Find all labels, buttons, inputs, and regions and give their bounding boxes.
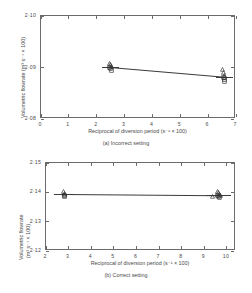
x-tick-label: 1 <box>66 121 69 127</box>
panel-caption-a: (a) Incorrect setting <box>0 140 252 146</box>
x-tick-label: 7 <box>157 253 160 259</box>
y-tick-label: 2·15 <box>17 159 41 165</box>
y-tick <box>41 119 44 120</box>
y-tick-label: 2·12 <box>17 247 41 253</box>
x-tick-label: 2 <box>43 253 46 259</box>
triangle-marker <box>210 194 214 198</box>
x-tick <box>159 246 160 249</box>
chart-panel-b: Volumetric flowrate (m³ s⁻¹ × 100) 23456… <box>0 150 252 293</box>
y-tick-label: 2·13 <box>17 218 41 224</box>
y-tick <box>41 16 44 17</box>
y-tick-right <box>231 119 234 120</box>
y-tick-right <box>231 192 234 193</box>
square-marker <box>217 195 221 199</box>
x-tick-label: 8 <box>179 253 182 259</box>
square-marker <box>109 68 113 72</box>
x-tick-top <box>159 163 160 166</box>
x-tick <box>124 114 125 117</box>
x-tick-label: 0 <box>38 121 41 127</box>
x-tick-top <box>91 163 92 166</box>
square-marker <box>222 79 226 83</box>
y-tick <box>46 163 49 164</box>
x-tick <box>96 114 97 117</box>
y-tick <box>46 221 49 222</box>
figure-root: Volumetric flowrate (m³ s⁻¹ × 100) 01234… <box>0 0 252 293</box>
x-tick-label: 10 <box>223 253 229 259</box>
x-tick <box>204 246 205 249</box>
x-tick <box>46 246 47 249</box>
square-marker <box>62 194 66 198</box>
x-tick <box>180 114 181 117</box>
x-tick <box>236 114 237 117</box>
x-tick <box>136 246 137 249</box>
x-tick-top <box>96 16 97 19</box>
x-tick-top <box>68 163 69 166</box>
x-tick-label: 6 <box>134 253 137 259</box>
x-tick-label: 3 <box>66 253 69 259</box>
x-axis-title-b: Reciprocal of diversion period (s⁻¹ × 10… <box>45 260 235 266</box>
x-tick <box>91 246 92 249</box>
y-tick <box>46 251 49 252</box>
y-tick <box>41 67 44 68</box>
x-tick-top <box>113 163 114 166</box>
plot-area-b <box>45 162 235 250</box>
x-tick-label: 3 <box>122 121 125 127</box>
x-tick-label: 4 <box>89 253 92 259</box>
y-tick-right <box>231 163 234 164</box>
y-tick-label: 2·08 <box>12 115 36 121</box>
plot-area-a <box>40 15 235 118</box>
y-tick-right <box>231 221 234 222</box>
x-tick-label: 2 <box>94 121 97 127</box>
x-tick <box>41 114 42 117</box>
y-tick-right <box>231 67 234 68</box>
x-tick-label: 4 <box>150 121 153 127</box>
x-tick-top <box>180 16 181 19</box>
x-tick-label: 7 <box>233 121 236 127</box>
y-tick-label: 2·10 <box>12 12 36 18</box>
y-tick-right <box>231 251 234 252</box>
y-tick-right <box>231 16 234 17</box>
chart-panel-a: Volumetric flowrate (m³ s⁻¹ × 100) 01234… <box>0 0 252 150</box>
x-tick <box>68 246 69 249</box>
x-tick <box>208 114 209 117</box>
panel-caption-b: (b) Correct setting <box>0 272 252 278</box>
x-tick <box>152 114 153 117</box>
x-tick-top <box>208 16 209 19</box>
x-tick-label: 5 <box>111 253 114 259</box>
x-tick-label: 6 <box>206 121 209 127</box>
x-tick-top <box>68 16 69 19</box>
x-tick-top <box>136 163 137 166</box>
x-tick <box>226 246 227 249</box>
y-axis-title-a: Volumetric flowrate (m³ s⁻¹ × 100) <box>20 37 26 118</box>
x-tick-top <box>181 163 182 166</box>
x-tick-top <box>152 16 153 19</box>
y-tick-label: 2·09 <box>12 64 36 70</box>
x-tick <box>181 246 182 249</box>
x-tick-label: 5 <box>178 121 181 127</box>
x-tick-top <box>124 16 125 19</box>
x-tick-top <box>226 163 227 166</box>
x-tick-top <box>204 163 205 166</box>
x-tick-top <box>236 16 237 19</box>
x-tick <box>113 246 114 249</box>
x-axis-title-a: Reciprocal of diversion period (s⁻¹ × 10… <box>40 128 235 134</box>
x-tick <box>68 114 69 117</box>
x-tick-label: 9 <box>202 253 205 259</box>
y-tick <box>46 192 49 193</box>
y-tick-label: 2·14 <box>17 188 41 194</box>
